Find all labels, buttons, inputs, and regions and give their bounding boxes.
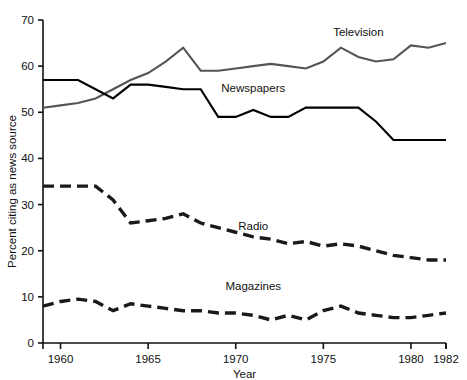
y-axis-title: Percent citing as news source [6, 115, 18, 268]
series-label-radio: Radio [238, 220, 268, 232]
series-label-newspapers: Newspapers [221, 82, 285, 94]
x-axis-tick-label: 1965 [135, 353, 161, 365]
y-axis-tick-label: 30 [21, 199, 34, 211]
y-axis-tick-label: 70 [21, 14, 34, 26]
y-axis: 010203040506070 [21, 14, 43, 349]
series-label-television: Television [333, 26, 384, 38]
x-axis-title: Year [233, 368, 256, 380]
series-labels: TelevisionNewspapersRadioMagazines [221, 26, 383, 292]
series-line-television [43, 43, 446, 108]
series-label-magazines: Magazines [225, 280, 281, 292]
news-source-line-chart: 010203040506070 196019651970197519801982… [0, 0, 467, 380]
x-axis: 196019651970197519801982 [43, 343, 459, 365]
x-axis-tick-label: 1975 [311, 353, 337, 365]
x-axis-tick-label: 1980 [398, 353, 424, 365]
y-axis-tick-label: 20 [21, 245, 34, 257]
x-axis-tick-label: 1982 [433, 353, 459, 365]
y-axis-tick-label: 40 [21, 152, 34, 164]
y-axis-tick-label: 10 [21, 291, 34, 303]
y-axis-tick-label: 50 [21, 106, 34, 118]
x-axis-tick-label: 1960 [48, 353, 74, 365]
y-axis-tick-label: 60 [21, 60, 34, 72]
series-line-magazines [43, 299, 446, 320]
chart-container: 010203040506070 196019651970197519801982… [0, 0, 467, 380]
y-axis-tick-label: 0 [28, 337, 34, 349]
x-axis-tick-label: 1970 [223, 353, 249, 365]
